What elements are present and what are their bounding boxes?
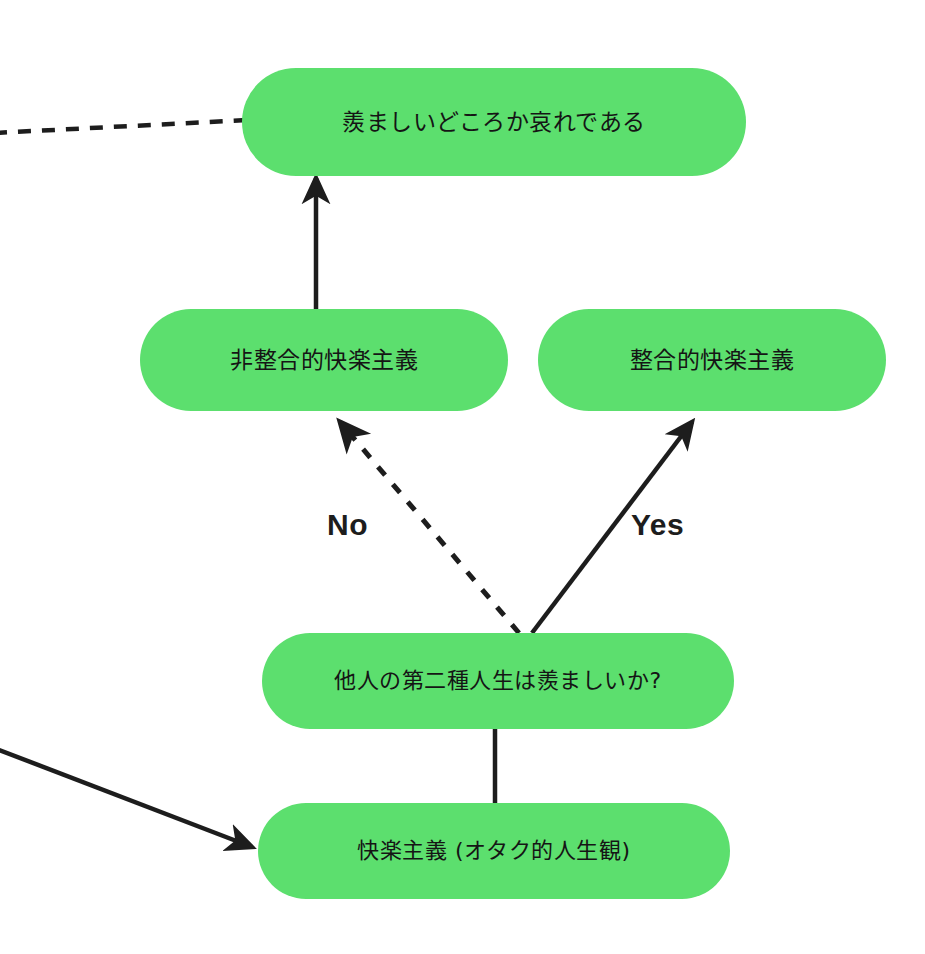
node-conclusion-label: 羨ましいどころか哀れである: [342, 111, 646, 134]
node-conclusion[interactable]: 羨ましいどころか哀れである: [242, 68, 746, 176]
node-nonintegrated-hedonism[interactable]: 非整合的快楽主義: [140, 309, 508, 411]
node-integrated-hedonism[interactable]: 整合的快楽主義: [538, 309, 886, 411]
node-hedonism-label: 快楽主義 (オタク的人生観): [357, 840, 630, 862]
edge-offscreen-to-conclusion: [0, 120, 248, 133]
edge-label-no: No: [327, 508, 368, 542]
node-decision-question-label: 他人の第二種人生は羨ましいか?: [334, 670, 661, 692]
edge-label-yes: Yes: [631, 508, 684, 542]
node-decision-question[interactable]: 他人の第二種人生は羨ましいか?: [262, 633, 734, 729]
flowchart-canvas: 羨ましいどころか哀れである 非整合的快楽主義 整合的快楽主義 他人の第二種人生は…: [0, 0, 925, 954]
edge-offscreen-to-hedonism: [0, 748, 252, 847]
node-integrated-hedonism-label: 整合的快楽主義: [630, 349, 795, 372]
node-hedonism[interactable]: 快楽主義 (オタク的人生観): [258, 803, 730, 899]
node-nonintegrated-hedonism-label: 非整合的快楽主義: [230, 349, 418, 372]
